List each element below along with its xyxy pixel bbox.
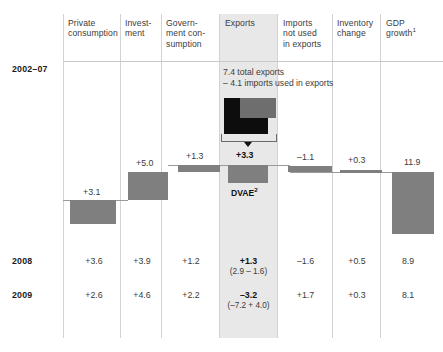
gridline-v-6 (332, 14, 333, 338)
value-label-gdp: 11.9 (404, 157, 420, 167)
bar-inventory-change (340, 170, 382, 173)
header-line1: GDP (386, 18, 405, 28)
exports-arrow-down-icon (244, 142, 252, 147)
column-header-gdp-growth: GDP growth1 (386, 18, 440, 39)
cell-2009-exports-sub: (–7.2 + 4.0) (220, 301, 277, 310)
exports-annotation: 7.4 total exports – 4.1 imports used in … (223, 67, 333, 89)
gridline-v-2 (120, 14, 121, 338)
bar-investment (128, 172, 168, 200)
chart-root: Private consumption Invest- ment Govern-… (0, 0, 443, 352)
annotation-line-imports-used: – 4.1 imports used in exports (223, 78, 333, 88)
bar-imports-used-in-exports (240, 98, 276, 118)
header-line1: Inventory (337, 18, 373, 28)
value-label-investment: +5.0 (136, 158, 153, 168)
header-line2: ment con- (166, 28, 205, 38)
row-label-2009: 2009 (12, 290, 32, 300)
column-header-investment: Invest- ment (125, 18, 163, 39)
header-rule (63, 61, 443, 62)
row-label-2002-07: 2002–07 (12, 64, 48, 74)
bar-government-consumption (178, 165, 220, 172)
bar-gdp-growth (392, 172, 434, 234)
footnote-marker-gdp: 1 (412, 27, 416, 34)
header-line3: sumption (166, 39, 202, 49)
cell-2009-gdp: 8.1 (382, 290, 434, 300)
cell-2008-government: +1.2 (163, 256, 219, 266)
cell-2009-exports: –3.2 (220, 290, 277, 300)
cell-2008-investment: +3.9 (122, 256, 162, 266)
column-header-exports: Exports (225, 18, 279, 28)
value-label-exports: +3.3 (236, 150, 253, 160)
header-line2: change (337, 28, 366, 38)
cell-2008-inventory: +0.5 (334, 256, 380, 266)
bar-dvae-exports (228, 165, 268, 183)
cell-2009-private: +2.6 (68, 290, 120, 300)
cell-2008-exports: +1.3 (220, 256, 277, 266)
cell-2009-imports: +1.7 (279, 290, 332, 300)
value-label-private-consumption: +3.1 (83, 187, 100, 197)
cell-2009-government: +2.2 (163, 290, 219, 300)
annotation-line-total-exports: 7.4 total exports (223, 67, 284, 77)
exports-bracket (221, 134, 277, 142)
value-label-dvae: DVAE2 (231, 188, 258, 198)
cell-2009-inventory: +0.3 (334, 290, 380, 300)
column-header-government-consumption: Govern- ment con- sumption (166, 18, 221, 49)
cell-2008-imports: –1.6 (279, 256, 332, 266)
column-header-private-consumption: Private consumption (68, 18, 120, 39)
header-line2: consumption (68, 28, 118, 38)
header-line2: growth (386, 28, 412, 38)
header-line3: in exports (283, 39, 321, 49)
header-line1: Private (68, 18, 95, 28)
value-label-government-consumption: +1.3 (186, 151, 203, 161)
gridline-v-7 (380, 14, 381, 338)
column-header-imports-not-used: Imports not used in exports (283, 18, 335, 49)
header-line2: not used (283, 28, 317, 38)
bar-imports-not-used (288, 166, 332, 172)
cell-2008-gdp: 8.9 (382, 256, 434, 266)
bar-private-consumption (70, 200, 116, 224)
header-line1: Imports (283, 18, 312, 28)
header-line1: Exports (225, 18, 255, 28)
header-line1: Invest- (125, 18, 152, 28)
cell-2008-exports-sub: (2.9 – 1.6) (220, 267, 277, 276)
cell-2009-investment: +4.6 (122, 290, 162, 300)
header-line2: ment (125, 28, 145, 38)
baseline-connector-6 (290, 172, 340, 173)
value-label-imports: –1.1 (297, 152, 314, 162)
gridline-v-1 (63, 14, 64, 338)
column-header-inventory-change: Inventory change (337, 18, 383, 39)
gridline-v-5 (277, 14, 278, 338)
row-label-2008: 2008 (12, 256, 32, 266)
cell-2008-private: +3.6 (68, 256, 120, 266)
header-line1: Govern- (166, 18, 198, 28)
dvae-text: DVAE (231, 188, 254, 198)
value-label-inventory: +0.3 (348, 155, 365, 165)
footnote-marker-dvae: 2 (254, 186, 257, 193)
